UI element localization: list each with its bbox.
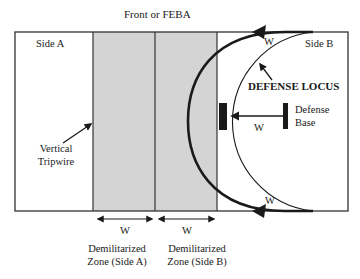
side-b-label: Side B xyxy=(305,37,333,50)
bottom-arrowhead-icon xyxy=(252,204,266,218)
defense-base-label-line1: Defense xyxy=(295,103,329,116)
dmz-b-label-line1: Demilitarized xyxy=(152,242,242,255)
defense-base-label-line2: Base xyxy=(295,116,315,129)
tripwire-label-line1: Vertical xyxy=(26,142,86,155)
w-bottom-label: W xyxy=(265,194,275,207)
tripwire-label-line2: Tripwire xyxy=(26,155,86,168)
w-dmz-b-label: W xyxy=(182,224,192,237)
front-feba-title: Front or FEBA xyxy=(124,8,191,21)
w-middle-label: W xyxy=(254,121,264,134)
dmz-b-label-line2: Zone (Side B) xyxy=(152,255,242,268)
dmz-side-a-region xyxy=(93,32,155,211)
side-a-label: Side A xyxy=(36,37,64,50)
dmz-a-label-line2: Zone (Side A) xyxy=(72,255,162,268)
w-dmz-a-label: W xyxy=(120,224,130,237)
defense-locus-node xyxy=(219,103,227,130)
dmz-side-b-region xyxy=(155,32,217,211)
defense-locus-pointer xyxy=(260,64,272,80)
defense-locus-label: DEFENSE LOCUS xyxy=(248,80,339,93)
dmz-a-label-line1: Demilitarized xyxy=(72,242,162,255)
w-top-label: W xyxy=(264,35,274,48)
tripwire-pointer xyxy=(63,124,91,143)
